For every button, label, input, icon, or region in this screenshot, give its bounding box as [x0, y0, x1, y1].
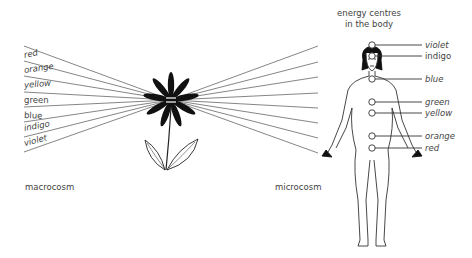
- chakra-label-yellow: yellow: [425, 109, 452, 118]
- macrocosm-caption: macrocosm: [25, 183, 74, 192]
- chakra-label-red: red: [425, 144, 439, 153]
- diagram-title: energy centres in the body: [324, 8, 414, 30]
- macro-label-blue: blue: [24, 111, 43, 120]
- chakra-label-violet: violet: [425, 41, 449, 50]
- title-line-1: energy centres: [324, 8, 414, 19]
- microcosm-caption: microcosm: [275, 183, 321, 192]
- diagram-canvas: [0, 0, 472, 258]
- chakra-label-green: green: [425, 98, 450, 107]
- macro-label-green: green: [24, 96, 49, 105]
- microcosm-rays: [171, 46, 318, 153]
- macro-label-yellow: yellow: [24, 79, 52, 90]
- chakra-label-blue: blue: [425, 75, 443, 84]
- chakra-label-indigo: indigo: [425, 52, 451, 61]
- flower-icon: [143, 72, 199, 170]
- chakra-label-orange: orange: [425, 132, 455, 141]
- title-line-2: in the body: [324, 19, 414, 30]
